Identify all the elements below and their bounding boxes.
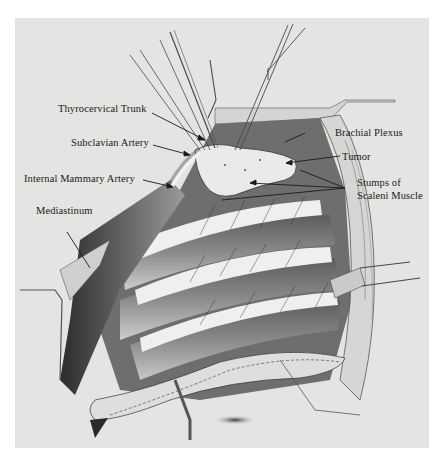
label-thyrocervical-trunk: Thyrocervical Trunk bbox=[58, 103, 147, 114]
label-subclavian-artery: Subclavian Artery bbox=[71, 137, 149, 148]
label-mediastinum: Mediastinum bbox=[36, 205, 93, 216]
label-scaleni-muscle: Scaleni Muscle bbox=[357, 190, 423, 201]
label-internal-mammary-artery: Internal Mammary Artery bbox=[24, 173, 135, 184]
anatomical-illustration bbox=[0, 0, 443, 457]
label-brachial-plexus: Brachial Plexus bbox=[335, 127, 403, 138]
label-tumor: Tumor bbox=[342, 151, 371, 162]
label-stumps-of: Stumps of bbox=[357, 177, 401, 188]
